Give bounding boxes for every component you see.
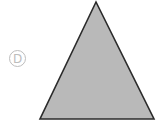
triangle-shape	[40, 2, 154, 119]
triangle-figure	[0, 0, 168, 126]
